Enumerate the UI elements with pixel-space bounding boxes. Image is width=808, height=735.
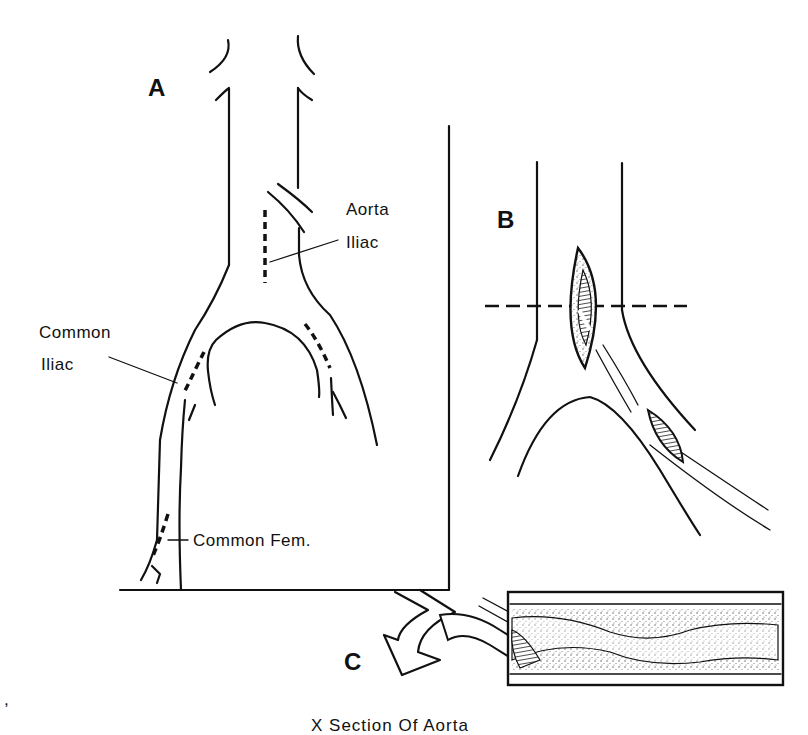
panel-a: A Aorta Iliac Common Iliac: [39, 36, 449, 590]
aorta-right-wall-lower: [299, 228, 377, 445]
aorta-leader-line: [270, 240, 338, 262]
stray-mark: ,: [4, 690, 9, 709]
left-leg-inner-wall: [180, 468, 182, 590]
femoral-tick: [152, 566, 160, 583]
iliac-label: Iliac: [346, 233, 379, 252]
aorta-left-wall: [216, 88, 229, 265]
common-iliac-leader-line: [109, 357, 177, 383]
aorta-break-left-top: [210, 40, 229, 72]
panel-a-letter: A: [148, 74, 165, 101]
distal-incision: [648, 410, 683, 462]
panel-b-letter: B: [497, 206, 514, 233]
common-label: Common: [39, 323, 111, 342]
common-fem-incision-dashes: [152, 514, 168, 558]
arch-left-tail: [208, 371, 215, 405]
break-mark-2: [268, 192, 304, 232]
aorta-break-right-top: [298, 36, 314, 74]
aorta-b-left-flare: [490, 340, 537, 460]
aorta-b-bifurcation-arch: [518, 397, 700, 535]
aorta-break-right-bottom: [298, 88, 312, 100]
left-leg-inner-wall-upper: [181, 400, 185, 468]
figure-caption: X Section Of Aorta: [311, 716, 469, 735]
panel-c-letter: C: [344, 648, 361, 675]
aorta-b-right-flare: [622, 310, 695, 430]
catheter-line-1: [603, 345, 638, 405]
catheter-line-3: [650, 445, 770, 530]
common-iliac-incision-dashes: [183, 352, 204, 395]
aorta-label: Aorta: [346, 200, 389, 219]
left-leg-branch-tick: [189, 405, 195, 420]
right-iliac-incision-dashes: [305, 324, 330, 368]
common-fem-label: Common Fem.: [193, 531, 311, 550]
iliac-label-2: Iliac: [41, 355, 74, 374]
panel-b: B: [485, 162, 770, 535]
rotation-arrow: [384, 590, 455, 675]
bifurcation-arch: [208, 322, 320, 397]
break-mark-1: [278, 184, 312, 212]
right-branch-tick: [333, 392, 346, 418]
right-branch-wall: [331, 378, 333, 415]
aorta-surgical-diagram: A Aorta Iliac Common Iliac: [0, 0, 808, 735]
panel-c: C: [344, 590, 783, 685]
